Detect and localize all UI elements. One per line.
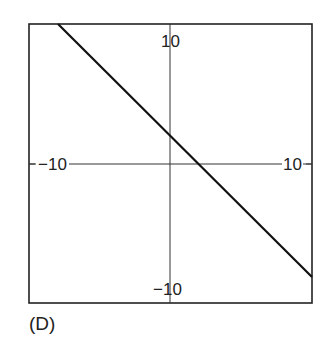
x-tick-label-neg: −10 [36,156,69,173]
y-tick-label-pos: 10 [161,33,180,50]
figure-caption: (D) [29,313,55,335]
y-tick-label-neg: −10 [153,281,182,298]
x-tick-label-pos: 10 [282,156,303,173]
data-line [58,24,312,277]
